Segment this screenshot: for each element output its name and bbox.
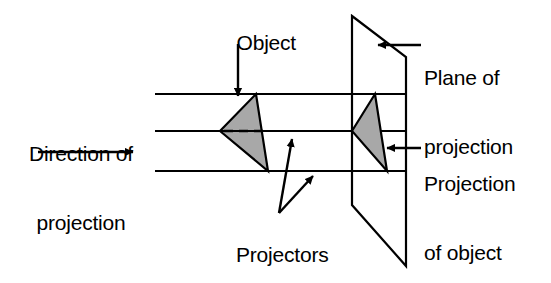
label-plane-line1: Plane of — [424, 66, 550, 89]
label-direction-line1: Direction of — [2, 142, 160, 165]
label-projobj-line1: Projection — [424, 172, 550, 195]
label-direction-of-projection: Direction of projection — [2, 96, 160, 280]
label-direction-line2: projection — [2, 211, 160, 234]
projection-of-object-shape — [352, 94, 387, 171]
label-projection-of-object: Projection of object — [424, 126, 550, 283]
label-projectors-text: Projectors — [236, 243, 329, 266]
label-object-text: Object — [237, 31, 297, 54]
projection-triangle — [352, 94, 387, 171]
label-projobj-line2: of object — [424, 241, 550, 264]
label-object: Object — [190, 8, 320, 77]
projection-diagram: Object Direction of projection Plane of … — [0, 0, 551, 283]
object-triangle — [220, 94, 268, 171]
label-projectors: Projectors — [196, 220, 346, 283]
object-shape — [220, 94, 268, 171]
